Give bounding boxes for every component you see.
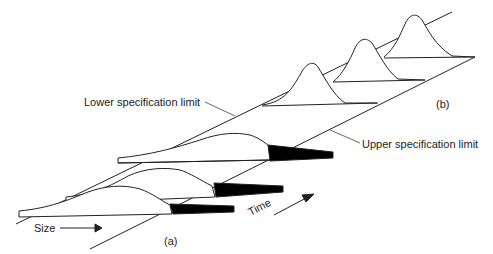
process-capability-diagram <box>0 0 493 254</box>
panel-b-label: (b) <box>436 98 449 110</box>
lower-spec-label: Lower specification limit <box>84 96 200 108</box>
upper-spec-leader <box>330 130 360 143</box>
size-axis-label: Size <box>34 222 55 234</box>
panel-a-label: (a) <box>164 235 177 247</box>
panel-b-distributions <box>262 15 475 106</box>
time-arrow <box>274 198 306 215</box>
lower-spec-leader <box>205 102 235 116</box>
upper-spec-label: Upper specification limit <box>362 138 478 150</box>
